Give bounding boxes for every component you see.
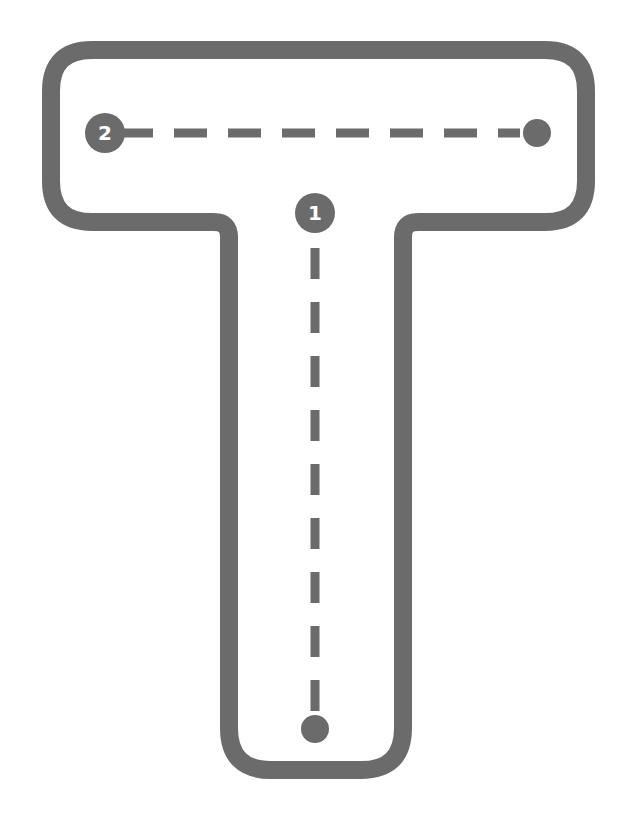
stroke-1-vertical-guide: 1 — [295, 193, 335, 743]
letter-t-tracing-worksheet: 2 1 — [0, 0, 635, 826]
stroke-2-number: 2 — [98, 121, 112, 145]
stroke-1-number: 1 — [308, 201, 322, 225]
stroke-2-horizontal-guide: 2 — [85, 113, 551, 153]
stroke-2-end-dot — [523, 119, 551, 147]
stroke-1-end-dot — [301, 715, 329, 743]
